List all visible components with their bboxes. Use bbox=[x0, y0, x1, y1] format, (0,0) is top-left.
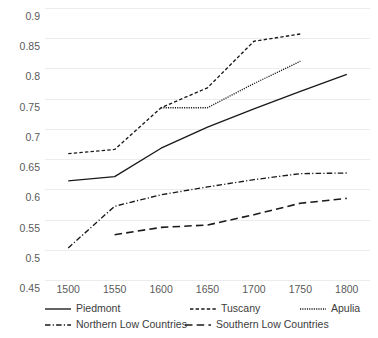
x-axis: 1500155016001650170017501800 bbox=[45, 283, 370, 299]
y-tick-label: 0.45 bbox=[0, 283, 40, 294]
legend-line-swatch bbox=[185, 320, 211, 330]
series-line-piedmont bbox=[68, 74, 347, 180]
x-tick-label: 1700 bbox=[231, 283, 277, 295]
x-tick-label: 1800 bbox=[324, 283, 370, 295]
legend-item-tuscany[interactable]: Tuscany bbox=[190, 303, 260, 314]
series-line-tuscany bbox=[68, 34, 300, 154]
x-tick-label: 1550 bbox=[92, 283, 138, 295]
x-tick-label: 1650 bbox=[185, 283, 231, 295]
legend-row-secondary: Northern Low CountriesSouthern Low Count… bbox=[45, 319, 370, 334]
series-line-apulia bbox=[161, 61, 300, 108]
legend-item-southern-low-countries[interactable]: Southern Low Countries bbox=[185, 319, 329, 330]
legend-label: Apulia bbox=[331, 303, 360, 314]
y-tick-label: 0.9 bbox=[0, 11, 40, 22]
x-tick-label: 1600 bbox=[138, 283, 184, 295]
y-tick-label: 0.6 bbox=[0, 192, 40, 203]
legend-line-swatch bbox=[45, 304, 71, 314]
y-tick-label: 0.85 bbox=[0, 41, 40, 52]
y-tick-label: 0.7 bbox=[0, 132, 40, 143]
y-tick-label: 0.8 bbox=[0, 71, 40, 82]
legend-row-primary: PiedmontTuscanyApulia bbox=[45, 303, 370, 318]
x-tick-label: 1500 bbox=[45, 283, 91, 295]
legend-item-northern-low-countries[interactable]: Northern Low Countries bbox=[45, 319, 187, 330]
x-tick-label: 1750 bbox=[277, 283, 323, 295]
legend-label: Southern Low Countries bbox=[216, 319, 329, 330]
series-line-southern-low-countries bbox=[115, 198, 347, 234]
y-tick-label: 0.5 bbox=[0, 253, 40, 264]
y-tick-label: 0.55 bbox=[0, 223, 40, 234]
legend-line-swatch bbox=[45, 320, 71, 330]
chart-legend: PiedmontTuscanyApulia Northern Low Count… bbox=[45, 303, 370, 337]
legend-item-piedmont[interactable]: Piedmont bbox=[45, 303, 120, 314]
legend-label: Piedmont bbox=[76, 303, 120, 314]
legend-label: Tuscany bbox=[221, 303, 260, 314]
y-axis: 0.450.50.550.60.650.70.750.80.850.9 bbox=[0, 8, 40, 280]
legend-line-swatch bbox=[300, 304, 326, 314]
line-chart: 0.450.50.550.60.650.70.750.80.850.9 1500… bbox=[0, 0, 378, 338]
y-tick-label: 0.65 bbox=[0, 162, 40, 173]
gridline bbox=[45, 280, 370, 281]
series-line-northern-low-countries bbox=[68, 173, 347, 248]
series-layer bbox=[45, 8, 370, 280]
legend-item-apulia[interactable]: Apulia bbox=[300, 303, 360, 314]
plot-area bbox=[45, 8, 370, 280]
legend-line-swatch bbox=[190, 304, 216, 314]
legend-label: Northern Low Countries bbox=[76, 319, 187, 330]
y-tick-label: 0.75 bbox=[0, 102, 40, 113]
